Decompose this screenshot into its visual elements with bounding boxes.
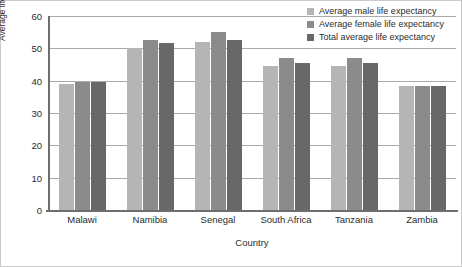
bar xyxy=(399,86,414,210)
legend-swatch-icon xyxy=(307,8,314,15)
legend-item: Total average life expectancy xyxy=(306,32,445,42)
bar xyxy=(279,58,294,210)
bar-groups xyxy=(48,16,456,210)
bar xyxy=(195,42,210,210)
x-tick-label: Zambia xyxy=(388,214,456,225)
bar xyxy=(59,84,74,210)
bar-group xyxy=(388,16,456,210)
legend-item: Average female life expectancy xyxy=(306,19,445,29)
x-tick-label: South Africa xyxy=(252,214,320,225)
legend-label: Average female life expectancy xyxy=(319,19,444,29)
y-tick-label: 10 xyxy=(31,172,42,183)
x-tick-label: Namibia xyxy=(116,214,184,225)
bar xyxy=(295,63,310,210)
bar xyxy=(127,48,142,210)
bar xyxy=(415,86,430,210)
y-tick-label: 20 xyxy=(31,140,42,151)
bar xyxy=(331,66,346,210)
bar xyxy=(211,32,226,210)
bar xyxy=(143,40,158,210)
plot-area: 0102030405060 xyxy=(48,16,456,210)
legend-swatch-icon xyxy=(307,34,314,41)
bar-group xyxy=(184,16,252,210)
bar xyxy=(347,58,362,210)
bar xyxy=(431,86,446,210)
bar xyxy=(263,66,278,210)
bar xyxy=(75,82,90,210)
legend-label: Average male life expectancy xyxy=(319,6,436,16)
x-tick-label: Senegal xyxy=(184,214,252,225)
bar-group xyxy=(320,16,388,210)
bar xyxy=(91,82,106,210)
legend-label: Total average life expectancy xyxy=(319,32,435,42)
x-tick-labels: MalawiNamibiaSenegalSouth AfricaTanzania… xyxy=(48,214,456,225)
y-tick-label: 0 xyxy=(37,205,42,216)
y-axis-title: Average life expectancy age xyxy=(0,0,7,41)
y-tick-label: 40 xyxy=(31,75,42,86)
y-tick-label: 30 xyxy=(31,108,42,119)
chart-figure: 0102030405060 MalawiNamibiaSenegalSouth … xyxy=(0,0,462,267)
bar-group xyxy=(252,16,320,210)
bar-group xyxy=(48,16,116,210)
y-tick-label: 60 xyxy=(31,11,42,22)
legend-swatch-icon xyxy=(307,21,314,28)
bar xyxy=(227,40,242,210)
bar xyxy=(363,63,378,210)
bar-group xyxy=(116,16,184,210)
x-tick-label: Malawi xyxy=(48,214,116,225)
x-tick-label: Tanzania xyxy=(320,214,388,225)
x-axis-line xyxy=(46,210,458,212)
bar xyxy=(159,43,174,210)
x-axis-title: Country xyxy=(48,237,456,248)
legend-item: Average male life expectancy xyxy=(306,6,445,16)
y-tick-label: 50 xyxy=(31,43,42,54)
chart-legend: Average male life expectancyAverage fema… xyxy=(306,6,445,42)
